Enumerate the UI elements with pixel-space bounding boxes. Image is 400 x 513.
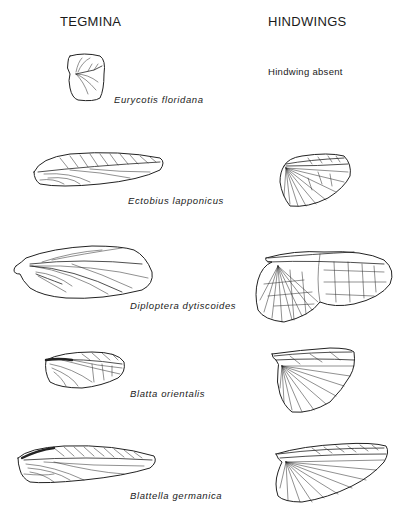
hindwing-absent-note: Hindwing absent [268, 66, 343, 77]
species-label-blattella-germanica: Blattella germanica [130, 490, 222, 501]
hindwing-ectobius-lapponicus-illustration [278, 150, 354, 210]
species-label-diploptera-dytiscoides: Diploptera dytiscoides [130, 300, 236, 311]
species-label-blatta-orientalis: Blatta orientalis [130, 388, 205, 399]
species-label-ectobius-lapponicus: Ectobius lapponicus [128, 195, 224, 206]
hindwing-blattella-germanica-illustration [272, 440, 390, 504]
tegmen-blatta-orientalis-illustration [42, 348, 126, 390]
hindwing-diploptera-dytiscoides-illustration [254, 240, 396, 324]
tegmen-blattella-germanica-illustration [14, 442, 158, 486]
tegmen-diploptera-dytiscoides-illustration [12, 244, 160, 302]
tegmen-ectobius-lapponicus-illustration [30, 150, 166, 188]
heading-hindwings: HINDWINGS [268, 14, 347, 29]
hindwing-blatta-orientalis-illustration [270, 346, 358, 414]
tegmen-eurycotis-floridana-illustration [64, 52, 108, 104]
species-label-eurycotis-floridana: Eurycotis floridana [114, 94, 204, 105]
heading-tegmina: TEGMINA [60, 14, 121, 29]
